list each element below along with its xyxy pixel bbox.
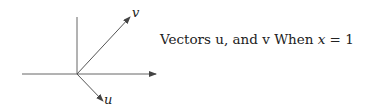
diagram-caption: Vectors u, and v When x = 1 [160, 31, 354, 47]
caption-text: Vectors u, and v When [160, 31, 318, 47]
vector-u-label: u [104, 92, 112, 107]
vector-u-arrow [77, 74, 103, 101]
vector-v-label: v [132, 5, 140, 20]
caption-relation: = [325, 31, 345, 47]
caption-value: 1 [345, 31, 354, 47]
vector-diagram: v u [0, 0, 374, 110]
vector-v-arrow [77, 17, 130, 74]
